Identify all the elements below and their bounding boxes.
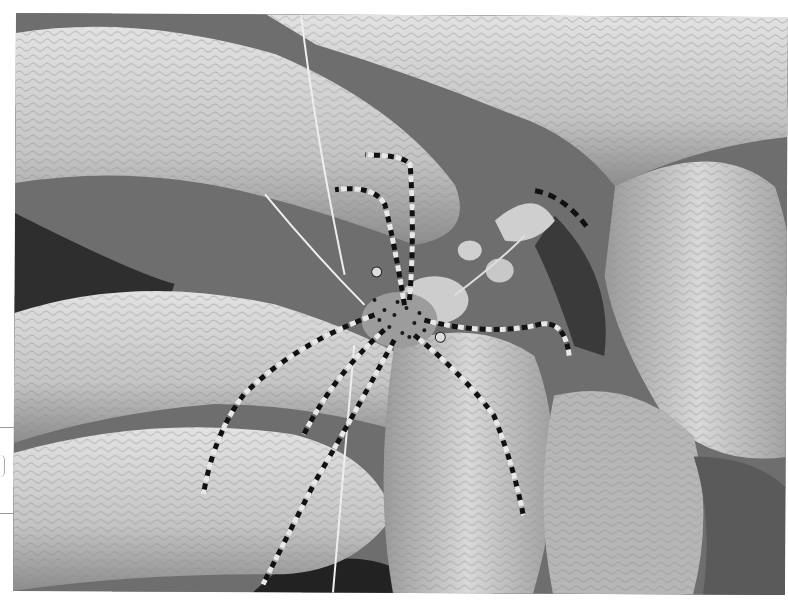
- photo-illustration: [13, 13, 788, 595]
- scanned-page: [0, 0, 788, 610]
- shrimp-anemone-photo: [13, 13, 788, 595]
- margin-fragment: [0, 455, 5, 477]
